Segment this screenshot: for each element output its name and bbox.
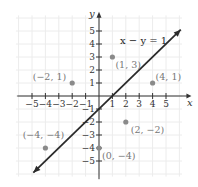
data-point [96,145,101,150]
y-tick-label: 1 [89,78,95,88]
point-label: (−2, 1) [33,71,67,82]
chart: −5−4−3−2−112345−5−4−3−2−112345 (1, 3)(−2… [0,0,198,187]
y-axis-label: y [88,8,95,19]
data-point [110,54,115,59]
x-tick-label: 5 [163,99,169,109]
y-tick-label: 3 [89,52,95,62]
x-tick-label: 1 [110,99,116,109]
point-label: (1, 3) [115,59,141,70]
y-tick-label: −5 [82,156,96,166]
point-label: (4, 1) [156,71,182,82]
x-tick-label: 2 [123,99,129,109]
y-tick-label: −1 [82,104,95,114]
point-label: (2, −2) [131,124,165,135]
point-label: (0, −4) [102,150,136,161]
data-point [43,145,48,150]
x-axis-label: x [187,97,193,108]
data-point [150,80,155,85]
y-tick-label: 2 [89,65,95,75]
y-tick-label: 4 [89,39,95,49]
equation-label: x − y = 1 [120,35,167,46]
x-tick-label: 3 [136,99,142,109]
x-tick-label: 4 [150,99,156,109]
y-axis-arrow-icon [97,12,102,18]
x-tick-label: −3 [52,99,66,109]
y-tick-label: −4 [82,143,96,153]
data-point [123,119,128,124]
y-tick-label: −3 [82,130,96,140]
y-tick-label: 5 [89,26,95,36]
x-tick-label: −5 [25,99,39,109]
x-tick-label: −2 [66,99,79,109]
x-tick-label: −4 [39,99,53,109]
data-point [70,80,75,85]
point-label: (−4, −4) [23,129,64,140]
